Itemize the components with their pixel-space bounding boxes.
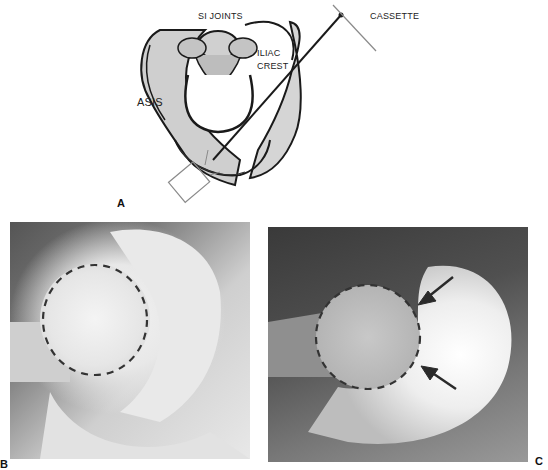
radiograph-c-image — [268, 227, 528, 462]
panel-letter-c: C — [535, 455, 543, 467]
label-asis: ASIS — [137, 96, 163, 108]
pelvis-illustration — [0, 0, 548, 215]
panel-b-radiograph — [10, 222, 250, 459]
panel-letter-a: A — [117, 197, 125, 209]
label-iliac: ILIAC — [257, 48, 281, 58]
label-si-joints: SI JOINTS — [198, 11, 243, 21]
radiograph-b-image — [10, 222, 250, 459]
label-cassette: CASSETTE — [370, 11, 419, 21]
label-crest: CREST — [257, 61, 289, 71]
panel-letter-b: B — [0, 458, 8, 470]
panel-a-pelvis-diagram: SI JOINTS CASSETTE ILIAC CREST ASIS A — [0, 0, 548, 215]
panel-c-radiograph — [268, 227, 528, 462]
